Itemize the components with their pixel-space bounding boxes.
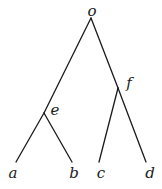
tree-svg: oefabcd [0, 0, 162, 189]
edge-o-f [91, 18, 118, 88]
node-label-c: c [97, 164, 106, 182]
node-labels: oefabcd [9, 2, 155, 182]
node-label-o: o [87, 2, 96, 20]
node-label-d: d [145, 164, 155, 182]
edge-e-b [44, 113, 72, 162]
node-label-f: f [125, 74, 134, 92]
node-label-a: a [9, 164, 18, 182]
node-label-e: e [51, 101, 60, 119]
node-label-b: b [69, 164, 79, 182]
edge-f-c [99, 88, 118, 162]
edge-f-d [118, 88, 146, 162]
edge-e-a [16, 113, 44, 162]
edge-o-e [44, 18, 91, 113]
tree-diagram: oefabcd [0, 0, 162, 189]
